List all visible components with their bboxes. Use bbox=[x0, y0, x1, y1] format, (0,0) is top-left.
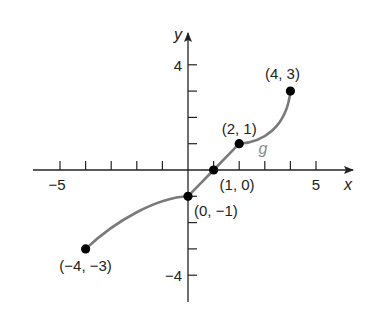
point-label: (−4, −3) bbox=[59, 257, 112, 274]
y-axis-label: y bbox=[173, 26, 183, 43]
x-tick-label: −5 bbox=[48, 176, 65, 193]
point-label: (4, 3) bbox=[265, 65, 300, 82]
y-tick-label: −4 bbox=[165, 267, 182, 284]
data-point bbox=[209, 165, 218, 174]
labels: −554−4xyg(−4, −3)(0, −1)(1, 0)(2, 1)(4, … bbox=[48, 26, 353, 284]
data-point bbox=[286, 87, 295, 96]
y-tick-label: 4 bbox=[174, 57, 182, 74]
point-label: (0, −1) bbox=[194, 202, 238, 219]
data-point bbox=[235, 139, 244, 148]
graph-of-g: −554−4xyg(−4, −3)(0, −1)(1, 0)(2, 1)(4, … bbox=[0, 0, 377, 322]
data-point bbox=[183, 192, 192, 201]
point-label: (1, 0) bbox=[220, 176, 255, 193]
data-point bbox=[81, 244, 90, 253]
x-tick-label: 5 bbox=[312, 176, 320, 193]
curve-label: g bbox=[258, 140, 267, 157]
x-axis-label: x bbox=[343, 176, 353, 193]
point-label: (2, 1) bbox=[222, 120, 257, 137]
